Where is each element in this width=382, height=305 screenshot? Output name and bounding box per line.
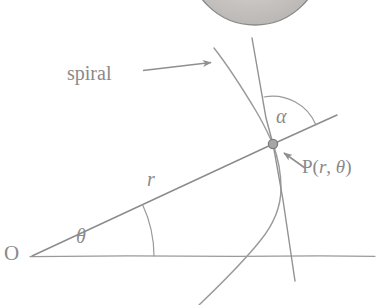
point-label-separator: , [326,156,336,177]
point-label-suffix: ) [345,156,351,177]
spiral-curve [199,48,281,305]
theta-label: θ [76,226,86,246]
shaded-disk [188,0,322,25]
theta-angle-arc [143,205,155,257]
alpha-angle-arc [264,96,316,125]
point-label-theta: θ [336,156,345,177]
radius-label: r [147,169,155,189]
spiral-diagram-figure: O θ r α spiral P(r, θ) [0,0,382,305]
spiral-leader-arrow [143,63,211,71]
polar-axis-line [30,256,375,257]
diagram-canvas [0,0,382,305]
point-p-marker [268,139,277,148]
point-p-label: P(r, θ) [302,157,351,176]
tangent-line [252,38,295,281]
spiral-label: spiral [67,63,111,83]
point-label-prefix: P( [302,156,319,177]
alpha-label: α [276,106,287,126]
origin-label: O [4,243,20,264]
